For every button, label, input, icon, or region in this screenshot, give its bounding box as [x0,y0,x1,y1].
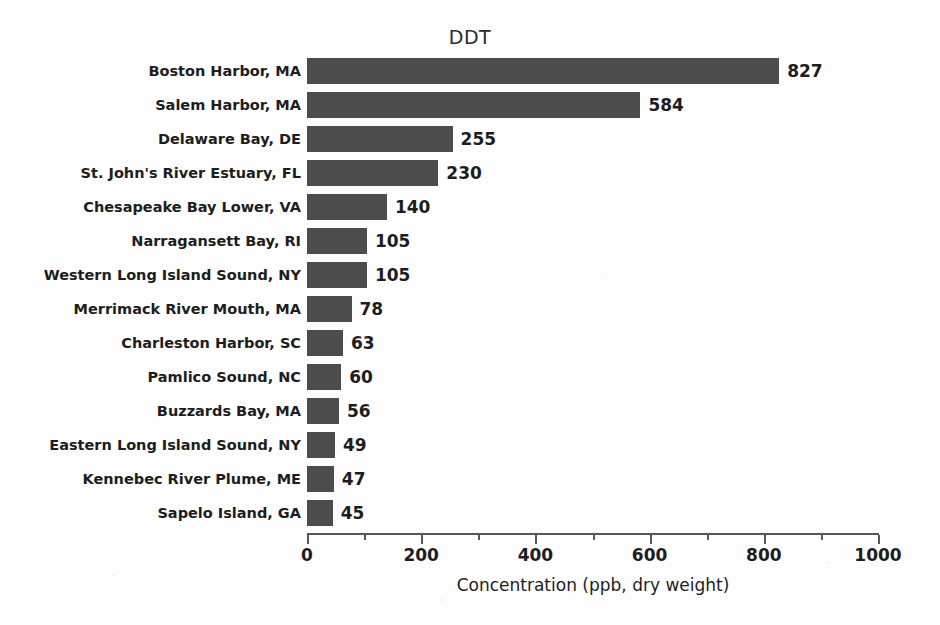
bar-category-label: Boston Harbor, MA [148,58,307,84]
bar-value-label: 140 [387,194,431,220]
bar-category-label: Western Long Island Sound, NY [44,262,307,288]
bar-value-label: 47 [334,466,366,492]
x-axis-minor-tick [593,535,595,540]
bar-row: Chesapeake Bay Lower, VA140 [0,194,940,220]
bar-value-label: 49 [335,432,367,458]
bar [307,296,352,322]
bar [307,228,367,254]
bar-row: Salem Harbor, MA584 [0,92,940,118]
x-axis-minor-tick [707,535,709,540]
bar [307,126,453,152]
x-axis-tick-label: 200 [403,545,439,565]
bar-category-label: Narragansett Bay, RI [131,228,307,254]
bar-category-label: Eastern Long Island Sound, NY [49,432,307,458]
bar-value-label: 105 [367,262,411,288]
bar-category-label: Sapelo Island, GA [157,500,307,526]
bar-category-label: Charleston Harbor, SC [121,330,307,356]
bar-category-label: St. John's River Estuary, FL [81,160,307,186]
x-axis-major-tick [307,535,309,544]
bar-value-label: 827 [779,58,823,84]
x-axis-minor-tick [364,535,366,540]
bar [307,58,779,84]
bar [307,432,335,458]
bar [307,160,438,186]
bar-value-label: 56 [339,398,371,424]
bar [307,466,334,492]
bar-category-label: Buzzards Bay, MA [157,398,307,424]
x-axis-tick-label: 600 [632,545,668,565]
x-axis-major-tick [535,535,537,544]
x-axis-tick-label: 800 [746,545,782,565]
bar [307,330,343,356]
bar-row: St. John's River Estuary, FL230 [0,160,940,186]
bar-value-label: 78 [352,296,384,322]
bar-row: Pamlico Sound, NC60 [0,364,940,390]
x-axis-tick-label: 0 [301,545,313,565]
x-axis-title: Concentration (ppb, dry weight) [307,575,879,595]
x-axis-major-tick [764,535,766,544]
bar [307,92,640,118]
bar-row: Narragansett Bay, RI105 [0,228,940,254]
bar-category-label: Salem Harbor, MA [155,92,307,118]
x-axis-major-tick [878,535,880,544]
bar-row: Western Long Island Sound, NY105 [0,262,940,288]
bar-row: Kennebec River Plume, ME47 [0,466,940,492]
bar-category-label: Kennebec River Plume, ME [82,466,307,492]
x-axis-major-tick [421,535,423,544]
bar-value-label: 45 [333,500,365,526]
bar-value-label: 105 [367,228,411,254]
bar-row: Sapelo Island, GA45 [0,500,940,526]
bar [307,262,367,288]
bar-row: Eastern Long Island Sound, NY49 [0,432,940,458]
bar-row: Buzzards Bay, MA56 [0,398,940,424]
bar-row: Charleston Harbor, SC63 [0,330,940,356]
bar-category-label: Pamlico Sound, NC [148,364,307,390]
x-axis-minor-tick [821,535,823,540]
bar-category-label: Delaware Bay, DE [158,126,307,152]
bar-chart-plot-area: Boston Harbor, MA827Salem Harbor, MA584D… [0,0,940,625]
bar-value-label: 63 [343,330,375,356]
bar-value-label: 230 [438,160,482,186]
x-axis-tick-label: 1000 [854,545,901,565]
x-axis-major-tick [650,535,652,544]
bar [307,194,387,220]
bar-row: Boston Harbor, MA827 [0,58,940,84]
bar-value-label: 60 [341,364,373,390]
bar [307,364,341,390]
x-axis-tick-label: 400 [518,545,554,565]
chart-page: DDT Boston Harbor, MA827Salem Harbor, MA… [0,0,940,625]
bar-category-label: Chesapeake Bay Lower, VA [83,194,307,220]
bar-value-label: 584 [640,92,684,118]
bar [307,398,339,424]
bar-row: Delaware Bay, DE255 [0,126,940,152]
bar [307,500,333,526]
bar-value-label: 255 [453,126,497,152]
x-axis-minor-tick [478,535,480,540]
bar-category-label: Merrimack River Mouth, MA [73,296,307,322]
bar-row: Merrimack River Mouth, MA78 [0,296,940,322]
